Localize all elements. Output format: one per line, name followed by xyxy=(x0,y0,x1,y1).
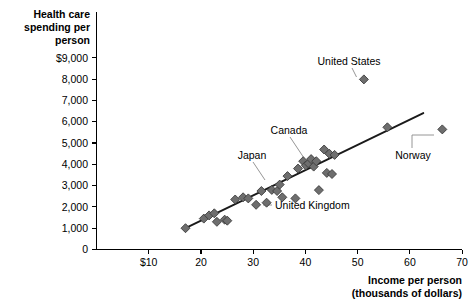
x-tick-label-30: 30 xyxy=(247,256,259,268)
data-point xyxy=(257,187,266,196)
x-axis-title-line2: (thousands of dollars) xyxy=(352,287,462,299)
data-point xyxy=(359,75,368,84)
annotation-label-norway: Norway xyxy=(395,149,431,161)
x-axis-title: Income per person (thousands of dollars) xyxy=(352,274,462,299)
annotation-label-canada: Canada xyxy=(271,124,308,136)
data-point xyxy=(212,217,221,226)
x-tick-label-10: $10 xyxy=(140,256,158,268)
y-tick-label-9000: $9,000 xyxy=(56,52,88,64)
data-point xyxy=(438,125,447,134)
y-tick-label-3000: 3,000 xyxy=(62,179,88,191)
y-tick-label-8000: 8,000 xyxy=(62,73,88,85)
x-tick-label-20: 20 xyxy=(195,256,207,268)
y-tick-label-1000: 1,000 xyxy=(62,222,88,234)
annotation-labels: United States Canada Japan Norway United… xyxy=(238,55,432,211)
x-tick-label-50: 50 xyxy=(352,256,364,268)
y-tick-label-0: 0 xyxy=(82,243,88,255)
data-point xyxy=(181,224,190,233)
leader-canada xyxy=(290,137,304,158)
y-tick-label-2000: 2,000 xyxy=(62,201,88,213)
data-point xyxy=(314,186,323,195)
y-tick-label-6000: 6,000 xyxy=(62,115,88,127)
leader-japan xyxy=(253,162,265,180)
x-tick-label-70: 70 xyxy=(456,256,468,268)
x-tick-label-60: 60 xyxy=(404,256,416,268)
y-tick-label-5000: 5,000 xyxy=(62,137,88,149)
x-axis-ticks xyxy=(149,250,462,255)
y-tick-label-4000: 4,000 xyxy=(62,158,88,170)
data-point xyxy=(252,200,261,209)
data-point xyxy=(283,172,292,181)
x-axis-tick-labels: $10 20 30 40 50 60 70 xyxy=(140,256,468,268)
y-tick-label-7000: 7,000 xyxy=(62,94,88,106)
x-tick-label-40: 40 xyxy=(300,256,312,268)
chart-canvas: 0 1,000 2,000 3,000 4,000 5,000 6,000 7,… xyxy=(0,0,474,306)
y-axis-tick-labels: 0 1,000 2,000 3,000 4,000 5,000 6,000 7,… xyxy=(56,52,88,256)
y-axis-ticks xyxy=(92,58,97,250)
x-axis-title-line1: Income per person xyxy=(368,274,462,286)
y-axis-title: Health care spending per person xyxy=(24,8,90,46)
data-point xyxy=(262,198,271,207)
leader-united-states xyxy=(352,68,357,77)
y-axis-title-line3: person xyxy=(55,34,90,46)
annotation-label-japan: Japan xyxy=(238,149,267,161)
y-axis-title-line1: Health care xyxy=(33,8,90,20)
scatter-chart: 0 1,000 2,000 3,000 4,000 5,000 6,000 7,… xyxy=(0,0,474,306)
annotation-label-united-states: United States xyxy=(317,55,380,67)
leader-norway xyxy=(412,135,434,148)
annotation-label-united-kingdom: United Kingdom xyxy=(275,199,350,211)
data-point xyxy=(383,123,392,132)
y-axis-title-line2: spending per xyxy=(24,21,90,33)
